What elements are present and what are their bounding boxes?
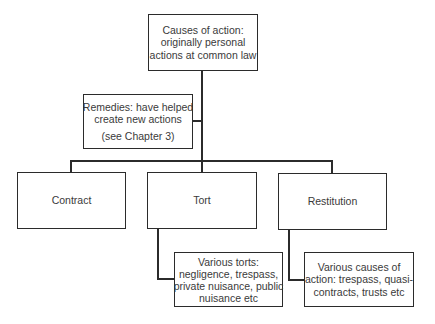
contract-drop-connector xyxy=(70,160,72,172)
tort-drop-connector xyxy=(201,160,203,172)
branch-node-tort: Tort xyxy=(147,172,257,229)
root-trunk-connector xyxy=(201,70,203,162)
tort-child-line: nuisance etc xyxy=(199,292,258,304)
remedies-node-note: (see Chapter 3) xyxy=(102,130,175,143)
branch-node-label: Tort xyxy=(193,194,211,207)
tort-child-line: private nuisance, public xyxy=(174,280,284,292)
remedies-node-line: Remedies: have helped xyxy=(83,101,193,114)
restitution-child-node-various-causes: Various causes of action: trespass, quas… xyxy=(304,252,414,307)
branch-node-label: Restitution xyxy=(308,195,358,208)
root-node-line: actions at common law xyxy=(150,49,257,62)
tort-child-connector-vertical xyxy=(157,228,159,280)
tort-child-connector-horizontal xyxy=(157,278,175,280)
tort-child-node-various-torts: Various torts: negligence, trespass, pri… xyxy=(174,252,283,307)
branch-node-restitution: Restitution xyxy=(278,173,387,230)
restitution-drop-connector xyxy=(331,160,333,173)
restitution-child-connector-horizontal xyxy=(288,279,305,281)
restitution-child-connector-vertical xyxy=(288,229,290,281)
restitution-child-line: contracts, trusts etc xyxy=(313,286,404,299)
tort-child-line: Various torts: xyxy=(198,256,259,268)
root-node-line: Causes of action: xyxy=(162,24,243,37)
restitution-child-line: action: trespass, quasi- xyxy=(305,273,413,286)
tort-child-line: negligence, trespass, xyxy=(179,268,278,280)
restitution-child-line: Various causes of xyxy=(318,261,401,274)
root-node-line: originally personal xyxy=(161,36,246,49)
remedies-connector xyxy=(192,120,202,122)
remedies-node-line: create new actions xyxy=(94,113,182,126)
branch-node-contract: Contract xyxy=(17,172,126,229)
root-node-causes-of-action: Causes of action: originally personal ac… xyxy=(148,14,258,71)
remedies-node: Remedies: have helped create new actions… xyxy=(83,94,193,149)
branch-node-label: Contract xyxy=(52,194,92,207)
